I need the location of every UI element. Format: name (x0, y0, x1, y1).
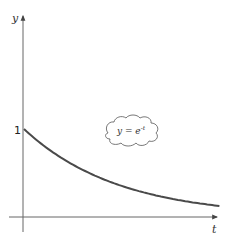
x-axis-label: t (212, 223, 217, 236)
y-tick-label-1: 1 (14, 124, 21, 137)
y-axis-label: y (11, 12, 19, 25)
exponential-decay-chart: y t 1 y = e-t (0, 0, 229, 244)
equation-cloud: y = e-t (106, 115, 158, 146)
